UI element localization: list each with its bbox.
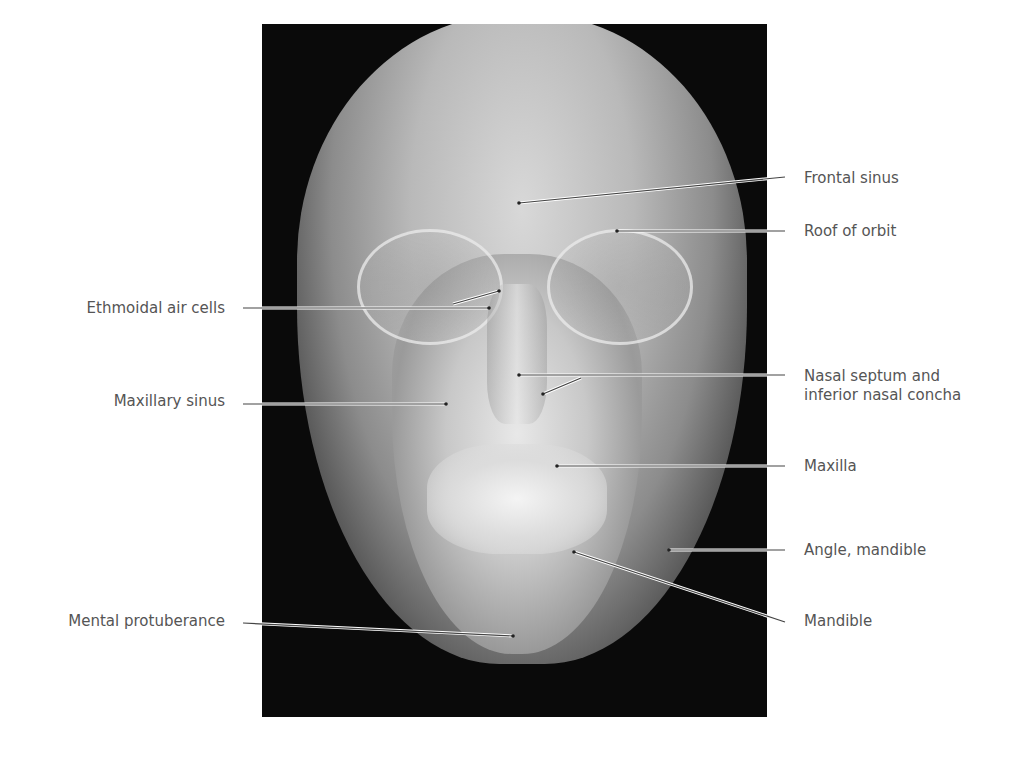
label-mental-protuberance: Mental protuberance [68,612,225,631]
skull-xray-image [262,24,767,717]
right-orbit [357,229,503,345]
label-inferior-nasal-concha: inferior nasal concha [804,386,961,405]
label-nasal-septum: Nasal septum and [804,367,940,386]
label-ethmoidal-air-cells: Ethmoidal air cells [87,299,225,318]
label-roof-of-orbit: Roof of orbit [804,222,896,241]
dentition [427,444,607,554]
label-maxilla: Maxilla [804,457,857,476]
left-orbit [547,229,693,345]
nasal-cavity [487,284,547,424]
label-angle-mandible: Angle, mandible [804,541,926,560]
label-mandible: Mandible [804,612,872,631]
label-maxillary-sinus: Maxillary sinus [114,392,225,411]
label-frontal-sinus: Frontal sinus [804,169,899,188]
